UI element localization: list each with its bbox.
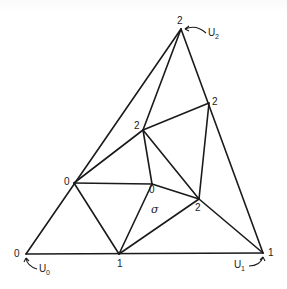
vertex-label-bottom_left: 0 — [14, 248, 20, 259]
u1-subscript: 1 — [241, 265, 245, 272]
vertex-label-inner_lower: 2 — [195, 202, 201, 213]
edge-right_mid-inner_lower — [199, 103, 209, 199]
vertex-labels: 222002011 — [14, 15, 274, 269]
edge-inner_upper-center — [143, 130, 152, 184]
vertex-label-left_mid: 0 — [64, 176, 70, 187]
triangulation-diagram: 222002011 U 2 U 0 U 1 σ — [0, 0, 287, 289]
vertex-label-center: 0 — [149, 184, 155, 195]
u0-subscript: 0 — [46, 269, 50, 276]
edge-top-inner_upper — [143, 29, 181, 130]
vertex-label-top: 2 — [177, 15, 183, 26]
vertex-label-bottom_mid: 1 — [117, 258, 123, 269]
vertex-label-bottom_right: 1 — [268, 247, 274, 258]
edges — [26, 29, 263, 254]
vertex-label-right_mid: 2 — [212, 96, 218, 107]
edge-bottom_mid-inner_lower — [119, 199, 199, 254]
edge-inner_upper-left_mid — [74, 130, 143, 183]
vertex-label-inner_upper: 2 — [134, 120, 140, 131]
edge-bottom_left-bottom_right — [26, 253, 263, 254]
edge-bottom_left-top — [26, 29, 181, 254]
edge-left_mid-bottom_mid — [74, 183, 119, 254]
sigma-label: σ — [151, 203, 159, 216]
edge-left_mid-center — [74, 183, 152, 184]
edge-inner_upper-right_mid — [143, 103, 209, 130]
u2-subscript: 2 — [215, 33, 219, 40]
